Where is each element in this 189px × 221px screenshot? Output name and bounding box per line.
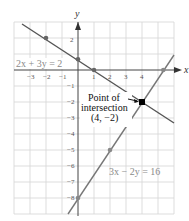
y-axis-arrow-icon <box>75 22 81 30</box>
x-tick: 3 <box>124 73 128 81</box>
point <box>108 148 113 153</box>
graph: x y −3 −2 −1 1 2 3 4 2 −1 −2 −3 −4 −5 −6… <box>0 0 189 221</box>
intersection-point <box>139 99 145 105</box>
point <box>92 68 97 73</box>
y-axis-label: y <box>74 8 80 19</box>
y-tick: −3 <box>67 114 75 122</box>
point <box>44 36 49 41</box>
y-tick: −2 <box>67 98 75 106</box>
x-tick: 4 <box>140 73 144 81</box>
y-tick: −8 <box>67 194 75 202</box>
y-tick: 2 <box>70 36 74 44</box>
equation-1-label: 2x + 3y = 2 <box>16 58 62 69</box>
point <box>76 57 81 62</box>
x-tick: −2 <box>43 73 51 81</box>
x-tick-labels: −3 −2 −1 1 2 3 4 <box>27 73 144 81</box>
y-tick: −7 <box>67 178 75 186</box>
x-tick: −3 <box>27 73 35 81</box>
point <box>161 68 166 73</box>
y-tick: −1 <box>67 82 75 90</box>
y-tick: −6 <box>67 162 75 170</box>
y-tick: −4 <box>67 130 75 138</box>
x-axis-label: x <box>183 64 189 75</box>
x-tick: −1 <box>59 73 67 81</box>
x-axis-arrow-icon <box>174 67 182 73</box>
y-tick: −5 <box>67 146 75 154</box>
equation-2-label: 3x − 2y = 16 <box>109 166 160 177</box>
annotation-line-3: (4, −2) <box>91 112 118 124</box>
x-tick: 1 <box>92 73 96 81</box>
point <box>76 196 81 201</box>
